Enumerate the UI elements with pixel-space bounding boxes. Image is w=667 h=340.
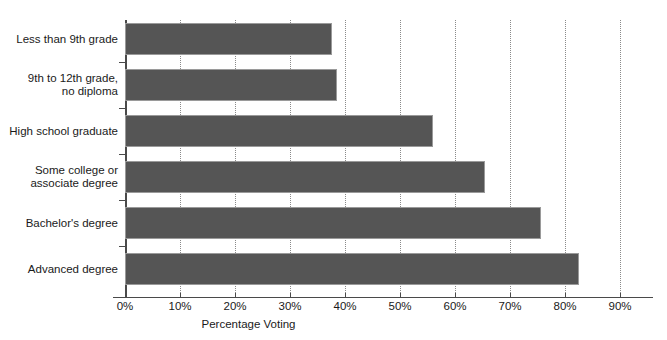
x-axis-tick-label: 90% <box>608 300 631 312</box>
x-axis-tick-label: 70% <box>498 300 521 312</box>
x-axis-tick-label: 40% <box>333 300 356 312</box>
plot-area <box>125 20 637 297</box>
x-axis-tick-label: 50% <box>388 300 411 312</box>
y-axis-tick <box>119 246 126 247</box>
x-axis-tick-label: 60% <box>443 300 466 312</box>
x-axis-tick <box>180 293 181 298</box>
y-axis-tick <box>119 108 126 109</box>
x-axis-line <box>113 297 653 298</box>
bar <box>125 69 337 101</box>
x-axis-tick <box>345 293 346 298</box>
y-axis-tick <box>119 62 126 63</box>
x-axis-tick-label: 0% <box>117 300 134 312</box>
y-axis-label: Some college or associate degree <box>30 164 118 190</box>
x-axis-tick <box>290 293 291 298</box>
x-axis-tick <box>620 293 621 298</box>
bar <box>125 253 579 285</box>
x-axis-title: Percentage Voting <box>0 318 667 330</box>
x-axis-tick <box>510 293 511 298</box>
bar-chart: 0%10%20%30%40%50%60%70%80%90% Percentage… <box>0 0 667 340</box>
x-axis-tick <box>455 293 456 298</box>
bar <box>125 161 485 193</box>
y-axis-label: 9th to 12th grade, no diploma <box>28 72 118 98</box>
x-axis-tick-label: 30% <box>278 300 301 312</box>
bar <box>125 207 541 239</box>
y-axis-label: Advanced degree <box>28 263 118 276</box>
y-axis-label: High school graduate <box>9 125 118 138</box>
x-axis-tick <box>565 293 566 298</box>
gridline-90 <box>620 20 621 297</box>
y-axis-tick <box>119 154 126 155</box>
x-axis-tick-label: 10% <box>168 300 191 312</box>
clipped-top-content <box>0 0 667 9</box>
x-axis-tick <box>125 293 126 298</box>
x-axis-tick-label: 80% <box>553 300 576 312</box>
y-axis-tick <box>119 200 126 201</box>
bar <box>125 23 332 55</box>
y-axis-label: Bachelor's degree <box>26 217 118 230</box>
bar <box>125 115 433 147</box>
x-axis-tick-label: 20% <box>223 300 246 312</box>
x-axis-tick <box>400 293 401 298</box>
y-axis-label: Less than 9th grade <box>16 33 118 46</box>
x-axis-tick <box>235 293 236 298</box>
